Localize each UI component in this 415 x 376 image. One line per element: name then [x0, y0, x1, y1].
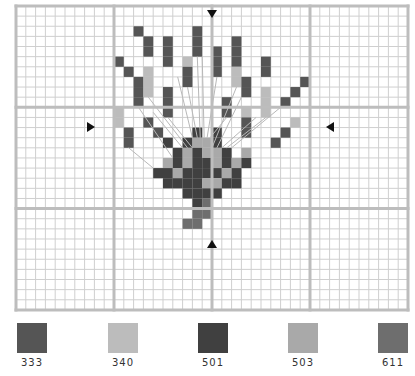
- stitch-611: [192, 219, 202, 229]
- stitch-503: [173, 168, 183, 178]
- stitch-501: [183, 168, 193, 178]
- stitch-333: [232, 57, 242, 67]
- stitch-501: [173, 178, 183, 188]
- stitch-333: [163, 97, 173, 107]
- swatch-label: 501: [193, 357, 233, 368]
- stitch-501: [192, 158, 202, 168]
- stitch-503: [241, 148, 251, 158]
- stitch-501: [241, 158, 251, 168]
- stitch-501: [192, 168, 202, 178]
- stitch-333: [163, 47, 173, 57]
- stitch-340: [143, 77, 153, 87]
- legend-item-333: 333: [12, 323, 52, 368]
- swatch-label: 340: [103, 357, 143, 368]
- stitch-340: [261, 97, 271, 107]
- stitch-340: [290, 117, 300, 127]
- legend-item-503: 503: [283, 323, 323, 368]
- swatch-611: [378, 323, 408, 353]
- legend-item-611: 611: [373, 323, 413, 368]
- stitch-340: [261, 107, 271, 117]
- stitch-503: [232, 158, 242, 168]
- stitch-333: [261, 67, 271, 77]
- stitch-333: [192, 36, 202, 46]
- stitch-340: [232, 67, 242, 77]
- stitch-501: [222, 148, 232, 158]
- stitch-501: [192, 188, 202, 198]
- stitch-503: [163, 158, 173, 168]
- swatch-333: [17, 323, 47, 353]
- stitch-333: [183, 67, 193, 77]
- swatch-501: [198, 323, 228, 353]
- stitch-340: [183, 57, 193, 67]
- stitch-501: [183, 188, 193, 198]
- stitch-503: [192, 138, 202, 148]
- stitch-333: [143, 36, 153, 46]
- stitch-503: [183, 158, 193, 168]
- stitch-501: [173, 148, 183, 158]
- stitch-340: [232, 77, 242, 87]
- stitch-501: [192, 178, 202, 188]
- stitch-501: [232, 168, 242, 178]
- stitch-501: [153, 168, 163, 178]
- stitch-340: [241, 107, 251, 117]
- stitch-611: [183, 219, 193, 229]
- stitch-501: [222, 158, 232, 168]
- stitch-501: [163, 178, 173, 188]
- stitch-333: [163, 107, 173, 117]
- stitch-333: [290, 87, 300, 97]
- stitch-333: [124, 128, 134, 138]
- stitch-333: [134, 26, 144, 36]
- swatch-label: 333: [12, 357, 52, 368]
- stitch-333: [134, 97, 144, 107]
- swatch-label: 611: [373, 357, 413, 368]
- swatch-label: 503: [283, 357, 323, 368]
- stitch-333: [241, 87, 251, 97]
- swatch-503: [288, 323, 318, 353]
- stitch-333: [232, 47, 242, 57]
- stitch-501: [232, 178, 242, 188]
- stitch-333: [192, 26, 202, 36]
- stitch-501: [163, 168, 173, 178]
- stitch-333: [134, 77, 144, 87]
- color-legend: 333 340 501 503 611: [0, 323, 415, 373]
- stitch-333: [124, 138, 134, 148]
- stitch-333: [261, 57, 271, 67]
- stitch-340: [143, 87, 153, 97]
- stitch-333: [192, 47, 202, 57]
- stitch-333: [271, 138, 281, 148]
- stitch-501: [192, 198, 202, 208]
- stitch-333: [281, 128, 291, 138]
- stitch-501: [173, 158, 183, 168]
- legend-item-340: 340: [103, 323, 143, 368]
- stitch-333: [281, 97, 291, 107]
- stitch-611: [192, 209, 202, 219]
- stitch-333: [241, 77, 251, 87]
- stitch-333: [183, 77, 193, 87]
- stitch-333: [163, 87, 173, 97]
- stitch-501: [192, 148, 202, 158]
- stitch-333: [124, 67, 134, 77]
- cross-stitch-chart: [0, 0, 415, 320]
- stitch-503: [183, 148, 193, 158]
- legend-item-501: 501: [193, 323, 233, 368]
- stitch-333: [134, 87, 144, 97]
- stitch-503: [222, 168, 232, 178]
- stitch-501: [183, 178, 193, 188]
- stitch-501: [222, 178, 232, 188]
- stitch-340: [143, 67, 153, 77]
- stitch-333: [232, 36, 242, 46]
- stitch-333: [143, 47, 153, 57]
- stitch-333: [163, 57, 173, 67]
- stitch-333: [163, 36, 173, 46]
- stitch-340: [261, 87, 271, 97]
- swatch-340: [108, 323, 138, 353]
